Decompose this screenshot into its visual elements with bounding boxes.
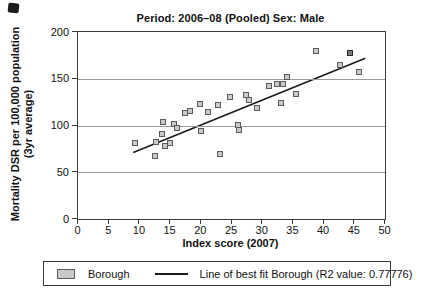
scatter-point <box>132 140 138 146</box>
best-fit-line-swatch-icon <box>155 273 188 275</box>
scatter-point <box>160 119 166 125</box>
scatter-point <box>266 83 272 89</box>
scatter-point <box>205 109 211 115</box>
y-tick-150 <box>72 78 77 79</box>
x-axis-label: Index score (2007) <box>77 237 384 249</box>
scatter-point <box>293 91 299 97</box>
scatter-point <box>254 105 260 111</box>
scatter-point <box>227 94 233 100</box>
borough-marker-swatch-icon <box>57 269 75 279</box>
x-tick-label-15: 15 <box>163 224 175 236</box>
scatter-point <box>174 125 180 131</box>
x-tick-label-40: 40 <box>317 224 329 236</box>
scatter-point <box>356 69 362 75</box>
x-tick-label-30: 30 <box>256 224 268 236</box>
scatter-point <box>274 81 280 87</box>
x-tick-label-35: 35 <box>286 224 298 236</box>
y-tick-50 <box>72 171 77 172</box>
scatter-point <box>167 140 173 146</box>
scatter-point <box>236 127 242 133</box>
x-tick-label-0: 0 <box>74 224 80 236</box>
scatter-point <box>217 151 223 157</box>
scatter-point <box>278 100 284 106</box>
scatter-point <box>284 74 290 80</box>
scatter-point <box>313 48 319 54</box>
x-tick-label-50: 50 <box>378 224 390 236</box>
scatter-point <box>198 128 204 134</box>
scatter-point <box>197 101 203 107</box>
y-tick-100 <box>72 125 77 126</box>
legend-borough-label: Borough <box>88 268 130 280</box>
x-tick-label-25: 25 <box>225 224 237 236</box>
scatter-point <box>246 97 252 103</box>
y-tick-200 <box>72 31 77 32</box>
chart-title: Period: 2006–08 (Pooled) Sex: Male <box>77 12 384 24</box>
legend-best-fit-label: Line of best fit Borough (R2 value: 0.77… <box>200 268 413 280</box>
gridline-y-50 <box>78 172 385 173</box>
scatter-point <box>152 153 158 159</box>
y-tick-label-200: 200 <box>43 26 69 38</box>
y-tick-label-50: 50 <box>43 166 69 178</box>
scatter-point <box>337 62 343 68</box>
y-axis-label-line2: (3yr average) <box>22 24 35 224</box>
y-tick-label-100: 100 <box>43 119 69 131</box>
scatter-point <box>187 108 193 114</box>
scatter-point <box>215 102 221 108</box>
gridline-y-100 <box>78 126 385 127</box>
y-tick-label-0: 0 <box>43 213 69 225</box>
y-axis-label: Mortality DSR per 100,000 population (3y… <box>9 24 35 224</box>
x-tick-label-5: 5 <box>105 224 111 236</box>
x-tick-label-45: 45 <box>348 224 360 236</box>
scatter-point <box>280 81 286 87</box>
plot-area <box>77 31 386 220</box>
x-tick-label-20: 20 <box>194 224 206 236</box>
scan-ink-artifact <box>8 2 20 13</box>
scatter-point <box>153 139 159 145</box>
scatter-point <box>347 50 353 56</box>
x-tick-label-10: 10 <box>133 224 145 236</box>
gridline-y-150 <box>78 79 385 80</box>
mortality-scatter-chart: Period: 2006–08 (Pooled) Sex: Male Morta… <box>0 0 431 300</box>
legend: Borough Line of best fit Borough (R2 val… <box>43 261 391 286</box>
y-tick-label-150: 150 <box>43 72 69 84</box>
y-axis-label-line1: Mortality DSR per 100,000 population <box>9 24 22 224</box>
scatter-point <box>159 131 165 137</box>
